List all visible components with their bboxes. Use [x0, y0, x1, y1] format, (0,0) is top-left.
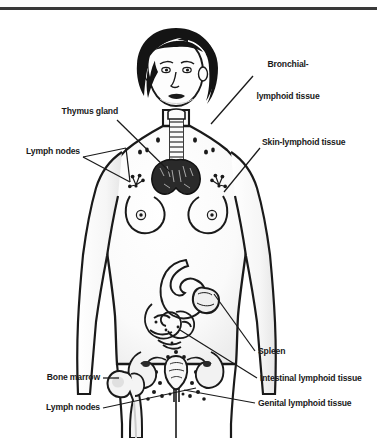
lymphatic-system-figure: Bronchial- lymphoid tissue Thymus gland …	[0, 0, 377, 438]
label-skin-lymphoid-tissue: Skin-lymphoid tissue	[262, 137, 374, 148]
top-divider-rule	[0, 7, 377, 10]
label-lymph-nodes-upper: Lymph nodes	[8, 146, 80, 157]
label-bronchial-line2: lymphoid tissue	[232, 91, 344, 102]
head	[137, 28, 218, 106]
label-bone-marrow: Bone marrow	[22, 372, 100, 383]
label-bronchial-line1: Bronchial-	[232, 59, 344, 70]
label-lymph-nodes-lower: Lymph nodes	[28, 402, 100, 413]
label-spleen: Spleen	[258, 346, 328, 357]
label-thymus-gland: Thymus gland	[38, 106, 118, 117]
femur-bone	[108, 371, 145, 438]
label-genital-lymphoid-tissue: Genital lymphoid tissue	[258, 398, 376, 409]
label-intestinal-lymphoid-tissue: Intestinal lymphoid tissue	[260, 373, 377, 384]
label-bronchial-lymphoid-tissue: Bronchial- lymphoid tissue	[232, 38, 344, 122]
